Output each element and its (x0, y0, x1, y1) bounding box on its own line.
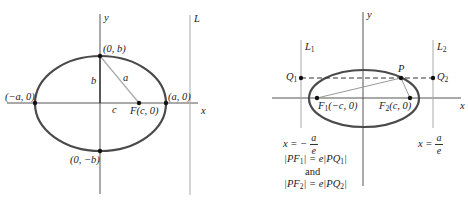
label-segment-a: a (123, 73, 128, 84)
label-segment-b: b (91, 76, 96, 87)
left-y-axis-label: y (104, 13, 109, 24)
label-P: P (398, 64, 404, 75)
point-P (399, 76, 403, 80)
right-directrix-equation: x = ae (418, 133, 443, 156)
right-x-axis-label: x (460, 101, 465, 112)
label-F1: F1(−c, 0) (318, 101, 357, 113)
label-right-vertex: (a, 0) (168, 92, 191, 103)
label-bottom-vertex: (0, −b) (70, 155, 100, 166)
relation-PF2: |PF2| = e|PQ2| (284, 179, 347, 191)
label-focus: F(c, 0) (130, 106, 159, 117)
left-ellipse-diagram (7, 14, 198, 195)
point-top-vertex (98, 54, 102, 58)
directrix-L2-label: L2 (437, 42, 447, 54)
label-left-vertex: (−a, 0) (5, 92, 35, 103)
left-x-axis-label: x (201, 106, 206, 117)
label-top-vertex: (0, b) (103, 44, 126, 55)
directrix-L1-label: L1 (305, 42, 315, 54)
relation-PF1: |PF1| = e|PQ1| (284, 154, 347, 166)
relation-and: and (305, 167, 320, 178)
label-Q1: Q1 (286, 72, 297, 84)
right-y-axis-label: y (367, 10, 372, 21)
point-bottom-vertex (98, 149, 102, 153)
segment-PF1 (317, 78, 401, 98)
label-Q2: Q2 (437, 72, 448, 84)
point-Q2 (431, 76, 435, 80)
label-F2: F2(c, 0) (379, 101, 411, 113)
directrix-L-label: L (194, 14, 200, 25)
label-segment-c: c (112, 105, 117, 116)
point-Q1 (299, 76, 303, 80)
